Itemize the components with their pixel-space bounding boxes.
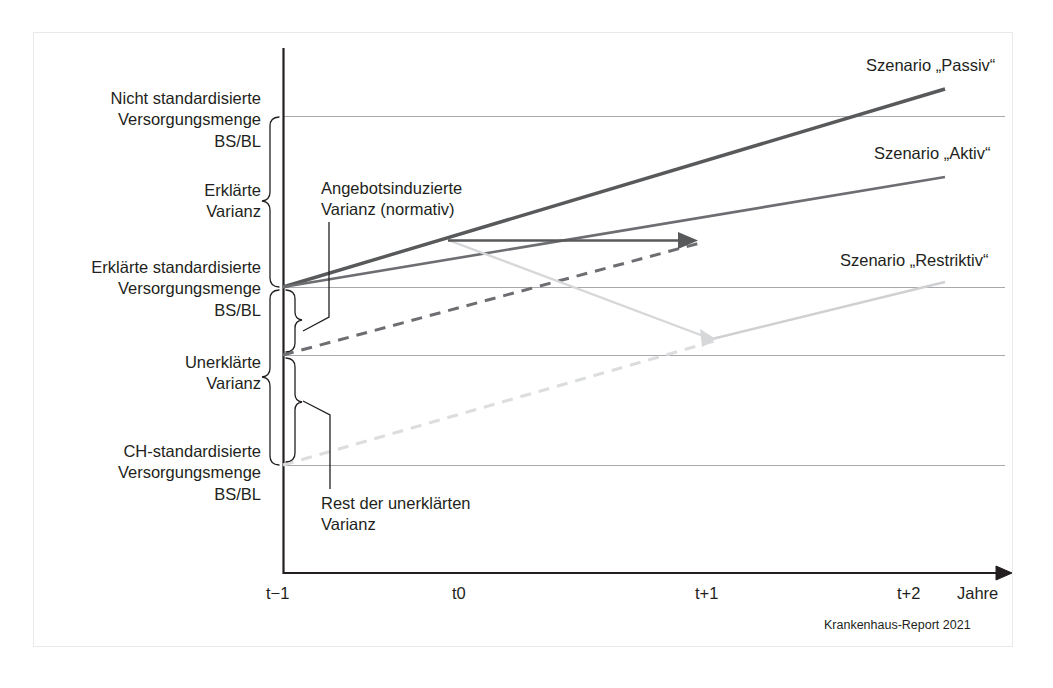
source-note: Krankenhaus-Report 2021: [824, 618, 971, 632]
scenario-label-restriktiv: Szenario „Restriktiv“: [840, 251, 989, 270]
x-axis-title: Jahre: [957, 584, 998, 603]
figure-canvas: Nicht standardisierteVersorgungsmengeBS/…: [0, 0, 1053, 688]
label-nicht-standardisierte: Nicht standardisierteVersorgungsmengeBS/…: [111, 88, 261, 152]
label-line: Versorgungsmenge: [118, 110, 261, 128]
label-ch-standardisierte: CH-standardisierteVersorgungsmengeBS/BL: [118, 441, 261, 505]
annotation-line: Varianz: [321, 515, 376, 533]
label-line: CH-standardisierte: [123, 442, 261, 460]
annotation-line: Varianz (normativ): [321, 200, 455, 218]
label-line: Varianz: [206, 202, 261, 220]
label-line: Versorgungsmenge: [118, 463, 261, 481]
annotation-rest-unerklaerte: Rest der unerklärtenVarianz: [321, 493, 471, 536]
annotation-angebotsinduzierte: AngebotsinduzierteVarianz (normativ): [321, 178, 462, 221]
label-line: Erklärte: [204, 181, 261, 199]
annotation-line: Rest der unerklärten: [321, 494, 471, 512]
label-erklaerte-standardisierte: Erklärte standardisierteVersorgungsmenge…: [91, 257, 261, 321]
scenario-label-passiv: Szenario „Passiv“: [866, 56, 995, 75]
label-line: Versorgungsmenge: [118, 279, 261, 297]
x-tick-t-minus-1: t−1: [266, 584, 289, 603]
label-unerklaerte-varianz: UnerklärteVarianz: [185, 352, 261, 395]
x-tick-t-plus-1: t+1: [695, 584, 718, 603]
label-line: Nicht standardisierte: [111, 89, 261, 107]
scenario-label-aktiv: Szenario „Aktiv“: [874, 144, 990, 163]
label-line: BS/BL: [214, 301, 261, 319]
label-line: Varianz: [206, 374, 261, 392]
x-tick-t0: t0: [452, 584, 466, 603]
label-erklaerte-varianz: ErklärteVarianz: [204, 180, 261, 223]
label-line: Unerklärte: [185, 353, 261, 371]
label-line: BS/BL: [214, 132, 261, 150]
annotation-line: Angebotsinduzierte: [321, 179, 462, 197]
x-tick-t-plus-2: t+2: [897, 584, 920, 603]
label-line: Erklärte standardisierte: [91, 258, 261, 276]
label-line: BS/BL: [214, 485, 261, 503]
